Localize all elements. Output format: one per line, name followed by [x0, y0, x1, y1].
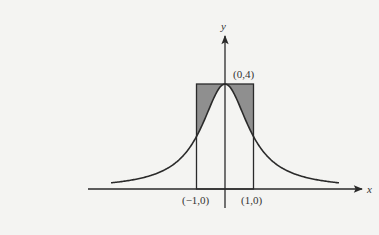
- x-axis-label: x: [366, 183, 372, 195]
- peak-label: (0,4): [233, 68, 254, 81]
- y-axis-label: y: [220, 20, 226, 32]
- left-point-label: (−1,0): [182, 194, 210, 207]
- right-point-label: (1,0): [241, 194, 262, 207]
- diagram-canvas: y x (0,4) (−1,0) (1,0): [0, 0, 379, 235]
